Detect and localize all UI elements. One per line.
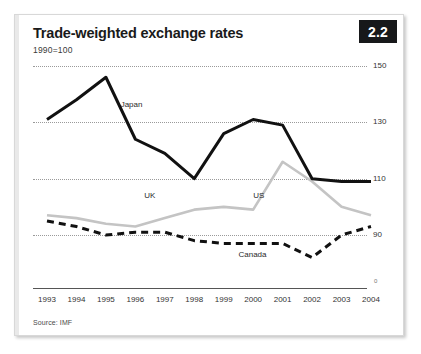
series-annotation-uk: UK xyxy=(144,191,155,200)
series-annotation-us: US xyxy=(253,191,264,200)
series-lines xyxy=(15,15,405,337)
plot-area: 9011013015001993199419951996199719981999… xyxy=(15,15,403,335)
series-line-canada xyxy=(47,221,371,258)
figure-card: 2.2 Trade-weighted exchange rates 1990=1… xyxy=(14,14,404,336)
series-line-us xyxy=(47,162,371,227)
source-note: Source: IMF xyxy=(33,319,72,326)
series-annotation-canada: Canada xyxy=(238,250,266,259)
series-line-japan xyxy=(47,77,371,181)
series-annotation-japan: Japan xyxy=(121,100,143,109)
